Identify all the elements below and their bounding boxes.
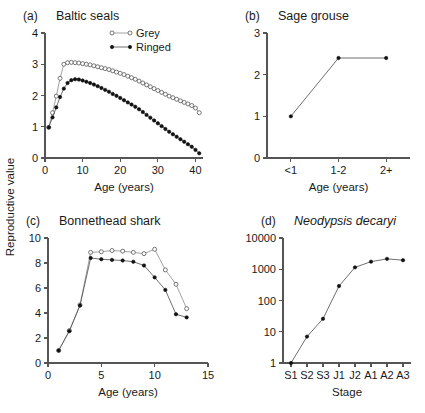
data-point: [160, 90, 164, 94]
data-point: [141, 110, 144, 113]
y-tick-label: 10000: [245, 232, 276, 244]
y-tick-label: 2: [35, 332, 41, 344]
data-point: [119, 96, 122, 99]
data-point: [185, 316, 188, 319]
x-tick-label: 20: [114, 164, 126, 176]
legend-item-Grey: Grey: [110, 27, 160, 39]
series-line-Ringed: [49, 79, 199, 153]
data-point: [385, 257, 388, 260]
x-tick-label: 0: [42, 164, 48, 176]
y-tick-label: 0: [32, 152, 38, 164]
panel-letter: (b): [245, 9, 260, 23]
data-point: [100, 258, 103, 261]
data-point: [62, 87, 65, 90]
data-point: [142, 264, 145, 267]
x-tick-label: J1: [333, 369, 345, 381]
data-point: [153, 276, 156, 279]
data-point: [111, 92, 114, 95]
series-line-Grey: [49, 62, 199, 127]
data-point: [66, 81, 69, 84]
panel-letter: (d): [261, 214, 276, 228]
data-point: [163, 92, 167, 96]
x-tick-label: 40: [189, 164, 201, 176]
x-axis-title: Age (years): [94, 181, 154, 193]
panel-letter: (a): [23, 9, 38, 23]
series-markers-Grey: [47, 60, 201, 129]
data-point: [73, 78, 76, 81]
data-point: [110, 249, 114, 253]
data-point: [134, 105, 137, 108]
x-tick-label: A1: [364, 369, 377, 381]
panel-a: 01234010203040(a)Baltic sealsAge (years): [23, 9, 203, 193]
data-point: [88, 81, 91, 84]
data-point: [160, 124, 163, 127]
x-tick-label: S2: [300, 369, 313, 381]
y-tick-label: 1000: [252, 263, 276, 275]
data-point: [84, 62, 88, 66]
data-point: [57, 349, 60, 352]
y-tick-label: 4: [32, 27, 38, 39]
data-point: [174, 313, 177, 316]
data-point: [305, 335, 308, 338]
data-point: [99, 250, 103, 254]
x-tick-label: 10: [76, 164, 88, 176]
data-point: [153, 247, 157, 251]
y-tick-label: 8: [35, 257, 41, 269]
data-point: [89, 256, 92, 259]
data-point: [58, 76, 62, 80]
data-point: [58, 95, 61, 98]
y-tick-label: 4: [35, 307, 41, 319]
data-point: [185, 307, 189, 311]
data-point: [51, 116, 54, 119]
data-point: [141, 81, 145, 85]
legend-label: Grey: [136, 27, 160, 39]
data-point: [337, 56, 340, 59]
x-tick-label: A3: [396, 369, 409, 381]
data-point: [107, 90, 110, 93]
panel-title: Neodypsis decaryi: [294, 214, 397, 228]
data-point: [198, 152, 201, 155]
y-tick-label: 1: [32, 121, 38, 133]
data-point: [369, 260, 372, 263]
data-point: [289, 115, 292, 118]
data-point: [68, 329, 71, 332]
series-line-Neodypsis decaryi: [291, 259, 403, 363]
x-tick-label: J2: [349, 369, 361, 381]
y-tick-label: 6: [35, 282, 41, 294]
data-point: [55, 106, 58, 109]
data-point: [142, 252, 146, 256]
data-point: [110, 258, 113, 261]
data-point: [81, 62, 85, 66]
figure-container: 01234010203040(a)Baltic sealsAge (years)…: [0, 0, 425, 413]
series-markers-Ringed: [47, 78, 201, 155]
data-point: [130, 103, 133, 106]
data-point: [353, 266, 356, 269]
data-point: [194, 148, 197, 151]
data-point: [186, 143, 189, 146]
four-panel-figure: 01234010203040(a)Baltic sealsAge (years)…: [0, 0, 425, 413]
data-point: [152, 87, 156, 91]
legend-marker: [128, 45, 131, 48]
x-tick-label: S3: [316, 369, 329, 381]
x-tick-label: <1: [285, 164, 298, 176]
legend-marker: [110, 45, 113, 48]
data-point: [171, 133, 174, 136]
series-line-Sage grouse: [291, 58, 386, 116]
data-point: [103, 88, 106, 91]
data-point: [92, 83, 95, 86]
data-point: [179, 138, 182, 141]
series-line-open: [59, 249, 187, 350]
series-markers-filled: [57, 256, 188, 352]
data-point: [131, 250, 135, 254]
series-markers-open: [57, 247, 189, 352]
y-tick-label: 10: [29, 232, 41, 244]
data-point: [164, 288, 167, 291]
panel-title: Bonnethead shark: [59, 214, 161, 228]
x-axis-title: Age (years): [98, 386, 158, 398]
data-point: [137, 79, 141, 83]
data-point: [121, 259, 124, 262]
data-point: [126, 101, 129, 104]
data-point: [92, 64, 96, 68]
series-markers-Neodypsis decaryi: [289, 257, 404, 365]
shared-y-axis-label: Reproductive value: [4, 158, 16, 256]
